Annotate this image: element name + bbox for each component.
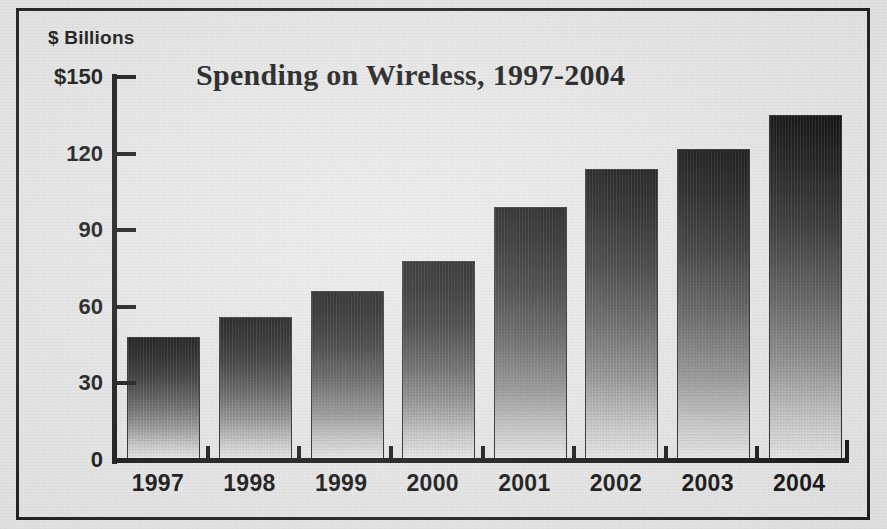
chart-figure: $ Billions Spending on Wireless, 1997-20… [0, 0, 887, 529]
y-axis-tick [112, 458, 136, 462]
y-axis-tick-label: 0 [91, 447, 103, 473]
y-axis-tick [112, 228, 136, 232]
bar [127, 337, 200, 460]
y-axis-line [112, 74, 117, 464]
y-axis-tick [112, 381, 136, 385]
bar [677, 149, 750, 461]
x-axis-label: 2004 [753, 470, 845, 497]
y-axis-tick-label: 120 [66, 141, 103, 167]
y-axis-tick [112, 75, 136, 79]
bar [494, 207, 567, 460]
chart-title: Spending on Wireless, 1997-2004 [196, 58, 625, 92]
x-axis-end-cap [845, 440, 849, 463]
x-axis-label: 2002 [570, 470, 662, 497]
x-axis-label: 2003 [662, 470, 754, 497]
x-axis-label: 1997 [112, 470, 204, 497]
y-axis-tick-labels: 0306090120$150 [0, 0, 103, 529]
x-axis-line [112, 458, 849, 463]
bar [219, 317, 292, 460]
x-axis-label: 1999 [295, 470, 387, 497]
y-axis-tick-label: 30 [79, 370, 103, 396]
y-axis-tick-label: $150 [54, 64, 103, 90]
bar [311, 291, 384, 460]
bar [769, 115, 842, 460]
bar [402, 261, 475, 460]
x-axis-label: 2001 [479, 470, 571, 497]
x-axis-label: 1998 [204, 470, 296, 497]
y-axis-tick [112, 305, 136, 309]
bar [585, 169, 658, 460]
plot-area [112, 77, 845, 460]
y-axis-tick-label: 60 [79, 294, 103, 320]
y-axis-tick [112, 152, 136, 156]
x-axis-label: 2000 [387, 470, 479, 497]
y-axis-tick-label: 90 [79, 217, 103, 243]
